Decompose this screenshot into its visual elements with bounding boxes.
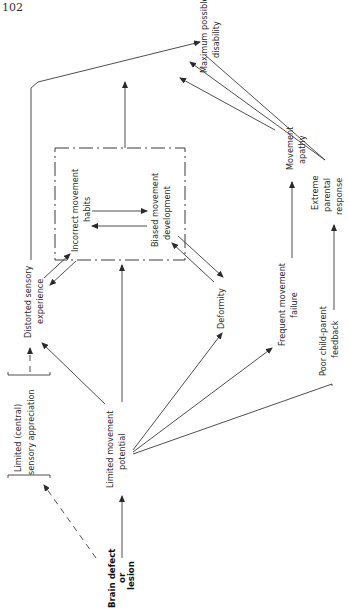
svg-text:experience: experience — [35, 279, 45, 324]
svg-text:Poor child-parent: Poor child-parent — [318, 305, 328, 376]
edge-distorted-to-max — [31, 42, 200, 260]
svg-text:lesion: lesion — [126, 561, 136, 590]
node-distorted-sensory: Distorted sensory experience — [23, 265, 45, 338]
svg-text:failure: failure — [289, 292, 299, 318]
svg-text:parental: parental — [322, 178, 332, 212]
node-extreme-response: Extreme parental response — [310, 176, 344, 215]
svg-text:Biased movement: Biased movement — [150, 172, 160, 247]
edge-habits-to-distorted — [50, 261, 76, 285]
node-limited-sensory: Limited (central) sensory appreciation — [13, 389, 36, 475]
svg-text:Incorrect movement: Incorrect movement — [70, 168, 80, 252]
node-brain-defect: Brain defect or lesion — [107, 549, 136, 608]
svg-text:apathy: apathy — [297, 135, 307, 164]
svg-text:Extreme: Extreme — [310, 176, 320, 210]
svg-text:response: response — [334, 178, 344, 215]
svg-text:feedback: feedback — [330, 320, 340, 358]
edge-movement-to-distorted — [42, 343, 105, 404]
svg-text:habits: habits — [82, 197, 92, 222]
node-limited-movement: Limited movement potential — [105, 410, 127, 488]
svg-text:Movement: Movement — [285, 126, 295, 170]
bracket-right — [8, 372, 50, 375]
svg-text:Maximum possible: Maximum possible — [199, 0, 209, 73]
svg-text:disability: disability — [211, 21, 221, 58]
svg-text:development: development — [162, 185, 172, 240]
svg-text:potential: potential — [117, 434, 127, 470]
svg-text:Frequent movement: Frequent movement — [277, 262, 287, 346]
edge-biased-to-deformity — [178, 236, 223, 277]
svg-text:Deformity: Deformity — [216, 288, 226, 329]
edge-movement-to-deformity — [133, 333, 222, 450]
svg-text:sensory appreciation: sensory appreciation — [26, 389, 36, 475]
edge-extreme-to-max-2 — [205, 55, 325, 160]
edge-brain-to-sensory — [44, 485, 96, 558]
svg-text:Distorted sensory: Distorted sensory — [23, 265, 33, 338]
node-deformity: Deformity — [216, 288, 226, 329]
svg-text:Limited movement: Limited movement — [105, 410, 115, 488]
node-max-disability: Maximum possible disability — [199, 0, 221, 73]
disability-flow-diagram: 102 Brain defect or lesion Limi — [0, 0, 349, 609]
page-number: 102 — [2, 1, 23, 14]
edge-movement-to-failure — [133, 348, 272, 452]
edge-distorted-to-habits — [44, 254, 70, 278]
node-incorrect-habits: Incorrect movement habits — [70, 168, 92, 252]
edge-movement-to-feedback — [133, 384, 332, 454]
node-movement-apathy: Movement apathy — [285, 126, 307, 170]
node-poor-feedback: Poor child-parent feedback — [318, 305, 340, 376]
svg-text:Limited (central): Limited (central) — [13, 404, 23, 472]
node-frequent-failure: Frequent movement failure — [277, 262, 299, 346]
node-biased-development: Biased movement development — [150, 172, 172, 247]
svg-text:Brain defect: Brain defect — [107, 549, 117, 608]
